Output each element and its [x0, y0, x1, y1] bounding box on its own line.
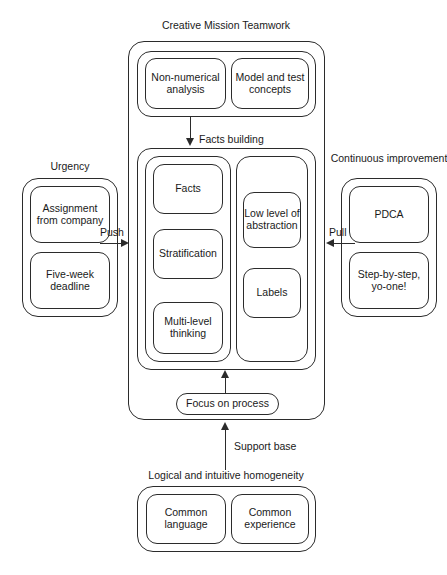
pull-arrow-head	[326, 239, 334, 247]
left-group-title: Urgency	[50, 160, 89, 172]
pull-arrow-line	[331, 243, 355, 244]
label-pull: Pull	[329, 226, 347, 238]
focus-to-knowledge-arrow-line	[225, 378, 226, 394]
right-group-title: Continuous improvement	[331, 152, 447, 164]
node-model-and-test-concepts[interactable]: Model and test concepts	[231, 58, 309, 109]
label-facts-building: Facts building	[199, 133, 264, 145]
node-step-by-step[interactable]: Step-by-step, yo-one!	[349, 252, 429, 309]
diagram-title: Creative Mission Teamwork	[162, 19, 290, 31]
label-push: Push	[100, 226, 124, 238]
push-arrow-head	[121, 239, 129, 247]
support-base-arrow-head	[221, 422, 229, 430]
focus-to-knowledge-arrow-head	[221, 370, 229, 378]
facts-building-arrow-head	[186, 138, 194, 146]
bottom-group-title: Logical and intuitive homogeneity	[148, 469, 303, 481]
node-focus-on-process[interactable]: Focus on process	[176, 393, 279, 415]
label-support-base: Support base	[234, 440, 296, 452]
node-non-numerical-analysis[interactable]: Non-numerical analysis	[145, 58, 226, 109]
node-common-experience[interactable]: Common experience	[231, 494, 309, 544]
node-facts[interactable]: Facts	[153, 164, 223, 214]
node-labels[interactable]: Labels	[243, 268, 301, 318]
node-five-week-deadline[interactable]: Five-week deadline	[30, 252, 110, 309]
node-low-level-of-abstraction[interactable]: Low level of abstraction	[243, 192, 301, 248]
diagram-canvas: Creative Mission Teamwork Non-numerical …	[0, 0, 447, 575]
node-multi-level-thinking[interactable]: Multi-level thinking	[153, 302, 223, 354]
node-common-language[interactable]: Common language	[146, 494, 226, 544]
node-pdca[interactable]: PDCA	[349, 186, 429, 243]
right-column-container	[236, 156, 308, 362]
node-assignment-from-company[interactable]: Assignment from company	[30, 186, 110, 243]
node-stratification[interactable]: Stratification	[153, 229, 223, 279]
support-base-arrow-line	[225, 430, 226, 470]
